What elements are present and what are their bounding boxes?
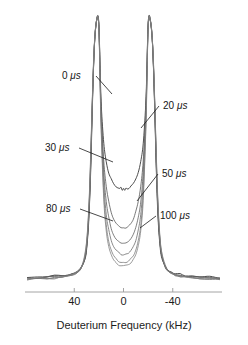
series-annotation-label: 0 μs bbox=[62, 70, 81, 81]
series-annotations-group: 0 μs20 μs30 μs50 μs80 μs100 μs bbox=[45, 70, 190, 228]
series-annotation-label: 80 μs bbox=[46, 203, 70, 214]
x-axis-tick-label: 40 bbox=[68, 295, 80, 307]
annotation-unit: μs bbox=[176, 100, 187, 111]
annotation-value: 30 bbox=[45, 142, 59, 153]
deuterium-nmr-spectrum-figure: 0 μs20 μs30 μs50 μs80 μs100 μs 400-40 De… bbox=[0, 0, 248, 345]
spectrum-plot: 0 μs20 μs30 μs50 μs80 μs100 μs 400-40 De… bbox=[0, 0, 248, 345]
annotation-unit: μs bbox=[175, 168, 186, 179]
annotation-value: 80 bbox=[46, 203, 60, 214]
annotation-value: 100 bbox=[160, 210, 179, 221]
annotation-value: 20 bbox=[163, 100, 177, 111]
annotation-unit: μs bbox=[178, 210, 189, 221]
x-axis-ticks bbox=[74, 288, 173, 292]
x-axis-tick-labels: 400-40 bbox=[68, 295, 181, 307]
x-axis-tick-label: 0 bbox=[120, 295, 126, 307]
annotation-leader-line bbox=[79, 148, 113, 162]
annotation-unit: μs bbox=[58, 142, 69, 153]
series-annotation-label: 30 μs bbox=[45, 142, 69, 153]
annotation-value: 50 bbox=[162, 168, 176, 179]
annotation-leader-line bbox=[141, 106, 159, 128]
series-annotation-label: 50 μs bbox=[162, 168, 186, 179]
x-axis-tick-label: -40 bbox=[165, 295, 181, 307]
x-axis-title: Deuterium Frequency (kHz) bbox=[56, 319, 191, 331]
annotation-leader-line bbox=[96, 76, 112, 94]
series-annotation-label: 100 μs bbox=[160, 210, 190, 221]
annotation-unit: μs bbox=[69, 70, 80, 81]
annotation-value: 0 bbox=[62, 70, 70, 81]
series-annotation-label: 20 μs bbox=[163, 100, 187, 111]
annotation-unit: μs bbox=[59, 203, 70, 214]
annotation-leader-line bbox=[137, 174, 158, 201]
x-axis-group: 400-40 bbox=[25, 288, 222, 307]
